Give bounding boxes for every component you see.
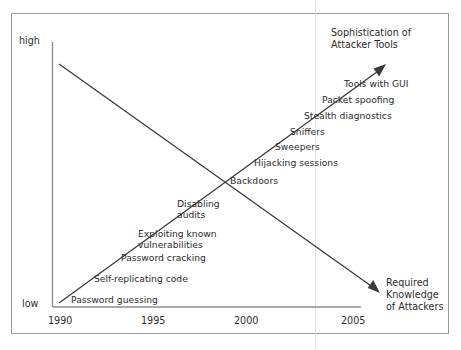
annotation-password-cracking: Password cracking xyxy=(121,252,206,264)
annotation-sweepers: Sweepers xyxy=(275,141,320,153)
series-title-required-line2: Knowledge xyxy=(386,289,439,301)
x-tick-2000: 2000 xyxy=(234,315,258,326)
x-tick-2005: 2005 xyxy=(341,315,365,326)
series-title-required-line3: of Attackers xyxy=(386,301,443,313)
figure-container: high low 1990 1995 2000 2005 Sophisticat… xyxy=(0,0,461,350)
annotation-exploiting-known-line1: Exploiting known xyxy=(138,228,217,240)
annotation-disabling-audits-line1: Disabling xyxy=(177,198,220,210)
x-tick-1990: 1990 xyxy=(48,315,72,326)
annotation-backdoors: Backdoors xyxy=(230,175,278,187)
y-axis-low-label: low xyxy=(22,298,38,309)
annotation-disabling-audits-line2: audits xyxy=(177,209,205,221)
annotation-self-replicating-code: Self-replicating code xyxy=(94,273,188,285)
series-title-sophistication-line1: Sophistication of xyxy=(331,27,411,39)
annotation-exploiting-known-line2: vulnerabilities xyxy=(138,239,203,251)
annotation-hijacking-sessions: Hijacking sessions xyxy=(254,157,338,169)
annotation-password-guessing: Password guessing xyxy=(71,294,158,306)
annotation-stealth-diagnostics: Stealth diagnostics xyxy=(304,110,392,122)
annotation-tools-with-gui: Tools with GUI xyxy=(344,78,409,90)
y-axis-high-label: high xyxy=(19,35,40,46)
series-title-required-line1: Required xyxy=(386,277,429,289)
x-tick-1995: 1995 xyxy=(141,315,165,326)
annotation-sniffers: Sniffers xyxy=(290,126,325,138)
series-title-sophistication-line2: Attacker Tools xyxy=(331,39,398,51)
annotation-packet-spoofing: Packet spoofing xyxy=(322,94,394,106)
